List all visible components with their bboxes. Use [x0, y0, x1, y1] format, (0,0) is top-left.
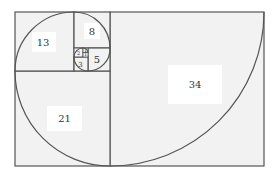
label-13: 13: [37, 37, 50, 48]
label-5: 5: [94, 54, 100, 65]
fibonacci-spiral-diagram: 34 21 13 8 5 3 2 1 1: [0, 0, 277, 179]
label-3: 3: [78, 61, 82, 69]
label-34: 34: [189, 79, 202, 90]
label-2: 2: [77, 50, 80, 56]
label-8: 8: [89, 26, 95, 37]
label-21: 21: [58, 113, 71, 124]
label-1b: 1: [84, 51, 87, 57]
